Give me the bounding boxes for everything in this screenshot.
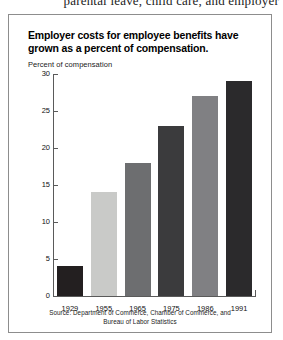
bars-layer: [53, 74, 256, 296]
bar-1929: [57, 266, 83, 296]
source-note-line-2: Bureau of Labor Statistics: [9, 318, 271, 327]
figure-title: Employer costs for employee benefits hav…: [28, 29, 256, 55]
y-axis-tick-mark: [53, 296, 58, 297]
source-note-line-1: Source: Department of Commerce, Chamber …: [9, 309, 271, 318]
plot-area: 051015202530 192919551965197519861991: [25, 72, 265, 302]
bar-1986: [192, 96, 218, 296]
y-axis-tick-label: 30: [42, 69, 50, 78]
source-note: Source: Department of Commerce, Chamber …: [9, 309, 271, 326]
x-axis-line: [53, 296, 256, 297]
y-axis-tick-label: 5: [46, 254, 50, 263]
y-axis-tick-label: 10: [42, 217, 50, 226]
bar-1975: [158, 126, 184, 296]
figure-title-line-1: Employer costs for employee benefits hav…: [28, 29, 256, 42]
y-axis-title: Percent of compensation: [28, 60, 112, 69]
bar-1955: [91, 192, 117, 296]
page-body-text-fragment: parental leave, child care, and employer: [0, 0, 283, 9]
y-axis-tick-label: 25: [42, 106, 50, 115]
y-axis-tick-label: 0: [46, 291, 50, 300]
bar-1991: [226, 81, 252, 296]
y-axis-tick-label: 20: [42, 143, 50, 152]
y-axis-tick-label: 15: [42, 180, 50, 189]
bar-1965: [125, 163, 151, 296]
figure-container: Employer costs for employee benefits hav…: [8, 14, 272, 333]
figure-title-line-2: grown as a percent of compensation.: [28, 42, 256, 55]
